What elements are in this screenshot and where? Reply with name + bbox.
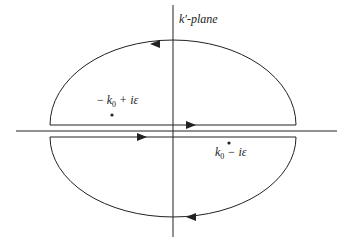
pole-upper-label: − k0 + iε xyxy=(97,93,138,109)
plane-label: k′-plane xyxy=(179,12,218,27)
pole-upper-dot xyxy=(110,113,113,116)
contour-diagram xyxy=(0,0,352,247)
arrow-lower-line-icon xyxy=(137,133,147,141)
arrow-upper-line-icon xyxy=(186,121,196,129)
pole-lower-label: k0 − iε xyxy=(215,145,247,161)
arrow-lower-arc-icon xyxy=(186,213,196,221)
